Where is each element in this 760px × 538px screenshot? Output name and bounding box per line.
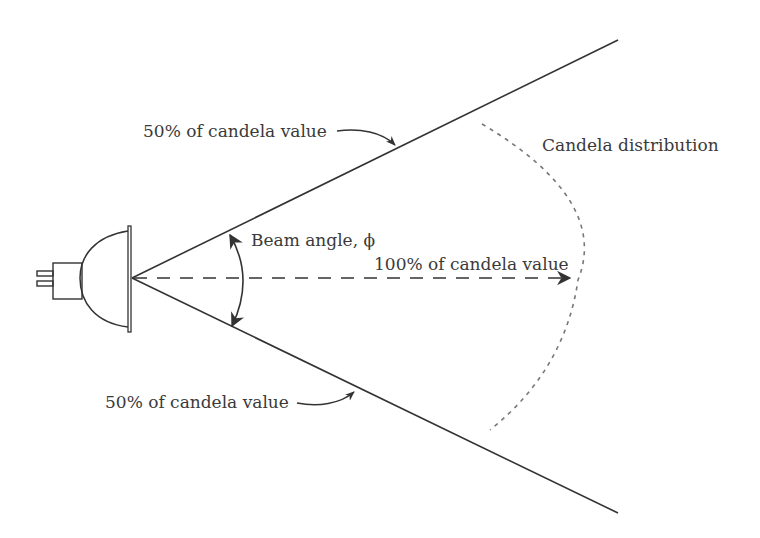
- lamp-reflector: [80, 231, 128, 327]
- upper-50-percent-label: 50% of candela value: [143, 121, 327, 141]
- full-candela-label: 100% of candela value: [374, 254, 569, 274]
- candela-distribution-label: Candela distribution: [542, 135, 719, 155]
- beam-angle-label: Beam angle, ϕ: [251, 230, 375, 250]
- lamp-icon: [37, 226, 131, 332]
- lamp-pin-upper: [37, 271, 53, 276]
- lamp-base: [53, 263, 82, 299]
- lower-50-percent-label: 50% of candela value: [105, 392, 289, 412]
- candela-distribution-arc: [482, 124, 584, 430]
- lamp-pin-lower: [37, 281, 53, 286]
- beam-angle-diagram: 50% of candela value 50% of candela valu…: [0, 0, 760, 538]
- lower-50-pointer-arrow: [297, 392, 354, 405]
- beam-angle-arc-arrow: [230, 235, 243, 326]
- lamp-lens: [128, 226, 131, 332]
- upper-50-pointer-arrow: [337, 130, 395, 145]
